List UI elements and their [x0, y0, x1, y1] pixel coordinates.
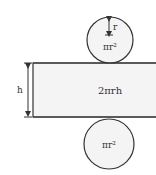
lateral-surface-rectangle [33, 63, 156, 117]
radius-label: r [113, 22, 118, 32]
top-circle [87, 17, 133, 63]
cylinder-net-diagram: r πr² πr² 2πrh h [0, 0, 156, 175]
bottom-circle-area-label: πr² [102, 140, 116, 150]
lateral-area-label: 2πrh [98, 85, 123, 96]
height-label: h [17, 85, 23, 95]
diagram-svg: r πr² πr² 2πrh h [0, 0, 156, 175]
top-circle-area-label: πr² [103, 42, 117, 52]
